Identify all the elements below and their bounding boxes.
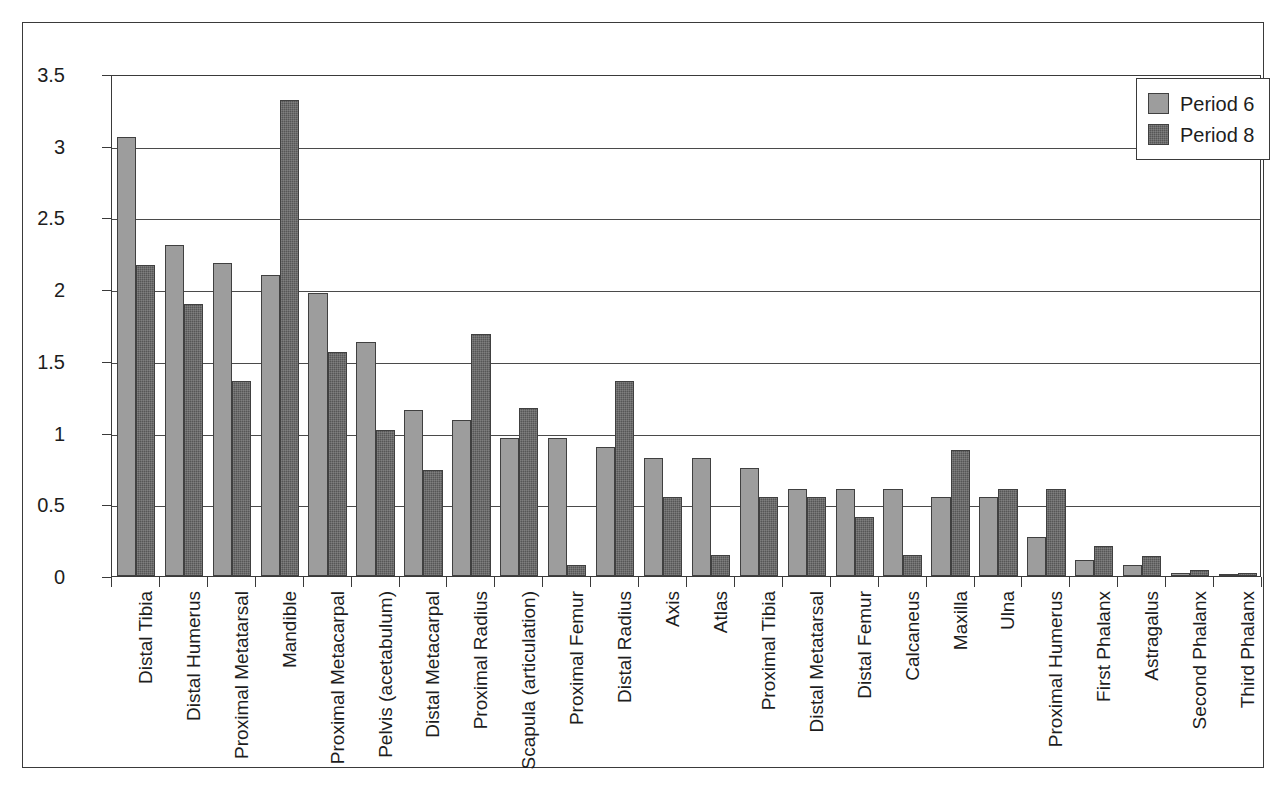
bar-group [591,76,639,576]
y-axis-tick-mark [102,577,111,578]
bar-group [927,76,975,576]
x-axis-tick-mark [111,577,112,587]
x-axis-tick-mark [686,577,687,587]
x-axis-category-label: Distal Humerus [184,591,203,791]
bar [548,438,567,576]
bar-group [495,76,543,576]
bar [280,100,299,576]
x-axis-category-label: Distal Metatarsal [807,591,826,791]
bar [807,497,826,576]
bar [500,438,519,576]
bar [855,517,874,576]
y-axis-tick-mark [102,218,111,219]
x-axis-category-label: Proximal Metacarpal [328,591,347,791]
bar [951,450,970,576]
bar-group [879,76,927,576]
x-axis-category-label: Distal Tibia [136,591,155,791]
x-axis-tick-mark [1261,577,1262,587]
bar [136,265,155,576]
x-axis-tick-mark [878,577,879,587]
x-axis-tick-mark [255,577,256,587]
y-axis-tick-mark [102,75,111,76]
bar [615,381,634,576]
x-axis-tick-mark [590,577,591,587]
legend-item-label: Period 6 [1180,94,1255,114]
bar-group [400,76,448,576]
y-axis-tick-label: 0 [0,567,65,587]
x-axis-category-label: Ulna [998,591,1017,791]
x-axis-category-label: Calcaneus [903,591,922,791]
x-axis-tick-mark [1021,577,1022,587]
bar-group [112,76,160,576]
x-axis-tick-mark [351,577,352,587]
bar-group [1070,76,1118,576]
chart-legend: Period 6Period 8 [1136,78,1270,160]
bar [759,497,778,576]
bar [979,497,998,576]
y-axis-tick-mark [102,147,111,148]
figure-frame: 00.511.522.533.5 Distal TibiaDistal Hume… [22,22,1264,768]
bar [452,420,471,576]
x-axis-category-label: Proximal Humerus [1046,591,1065,791]
x-axis-category-label: Scapula (articulation) [519,591,538,791]
x-axis-category-label: Proximal Metatarsal [232,591,251,791]
bar [356,342,375,576]
x-axis-tick-mark [638,577,639,587]
y-axis-tick-label: 1 [0,424,65,444]
bar [1190,570,1209,576]
bar-group [304,76,352,576]
bar [740,468,759,576]
legend-item: Period 6 [1148,88,1255,119]
bar [883,489,902,576]
x-axis-tick-mark [1165,577,1166,587]
bar-group [975,76,1023,576]
bar [308,293,327,576]
bar [1219,574,1238,576]
x-axis-tick-mark [1117,577,1118,587]
bar-group [831,76,879,576]
bar-group [735,76,783,576]
x-axis-category-label: Third Phalanx [1238,591,1257,791]
y-axis-tick-mark [102,362,111,363]
bar [1075,560,1094,576]
bar [404,410,423,576]
y-axis-tick-label: 1.5 [0,352,65,372]
bar-group [687,76,735,576]
bars-layer [112,76,1260,576]
bar-group [208,76,256,576]
x-axis-tick-mark [207,577,208,587]
bar [1238,573,1257,576]
x-axis-category-label: Distal Metacarpal [423,591,442,791]
bar [261,275,280,576]
bar [596,447,615,576]
bar [711,555,730,577]
x-axis-category-label: Distal Radius [615,591,634,791]
bar [788,489,807,576]
bar [644,458,663,576]
x-axis-tick-mark [734,577,735,587]
x-axis-category-label: Maxilla [951,591,970,791]
plot-area [111,75,1261,577]
x-axis-tick-mark [446,577,447,587]
legend-item: Period 8 [1148,119,1255,150]
bar [328,352,347,576]
bar [567,565,586,576]
bar [213,263,232,576]
x-axis-tick-mark [303,577,304,587]
bar [1027,537,1046,576]
bar-group [543,76,591,576]
bar [663,497,682,576]
x-axis-category-label: First Phalanx [1094,591,1113,791]
bar-group [783,76,831,576]
x-axis-category-label: Distal Femur [855,591,874,791]
y-axis-tick-label: 3.5 [0,65,65,85]
x-axis-category-label: Second Phalanx [1190,591,1209,791]
bar [423,470,442,576]
bar [1171,573,1190,576]
x-axis-tick-mark [1069,577,1070,587]
bar [519,408,538,576]
bar [1046,489,1065,576]
x-axis-category-label: Proximal Tibia [759,591,778,791]
x-axis-tick-mark [1213,577,1214,587]
legend-item-label: Period 8 [1180,125,1255,145]
